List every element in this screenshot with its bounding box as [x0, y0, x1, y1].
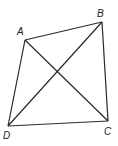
side-cd [8, 121, 108, 126]
label-d: D [3, 130, 10, 141]
side-da [8, 40, 25, 126]
diagonal-bd [8, 22, 102, 126]
side-bc [102, 22, 108, 121]
quadrilateral-diagram: A B C D [0, 0, 118, 146]
label-c: C [104, 126, 112, 137]
side-ab [25, 22, 102, 40]
label-b: B [97, 8, 104, 19]
diagonal-ac [25, 40, 108, 121]
label-a: A [16, 26, 24, 37]
